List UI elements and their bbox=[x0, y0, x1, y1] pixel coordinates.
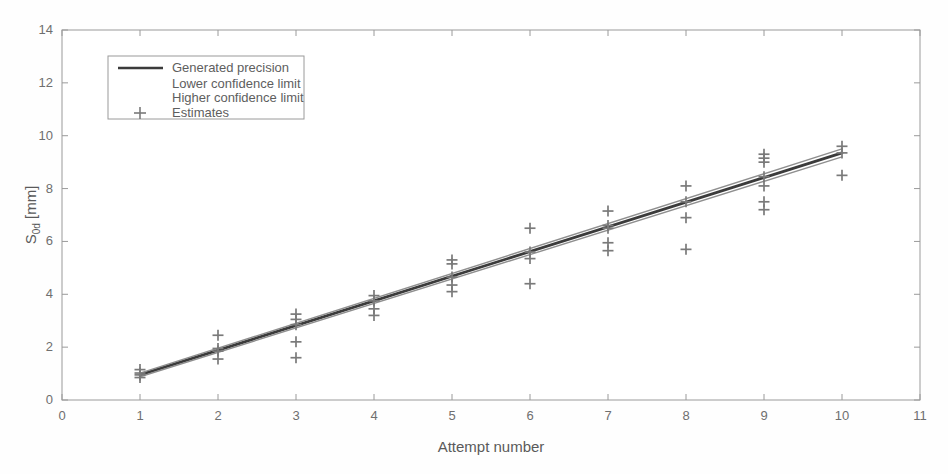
x-tick-label: 7 bbox=[604, 408, 611, 423]
x-tick-label: 1 bbox=[136, 408, 143, 423]
chart-legend: Generated precision Lower confidence lim… bbox=[108, 56, 304, 120]
x-tick-label: 0 bbox=[58, 408, 65, 423]
legend-label-0: Generated precision bbox=[172, 60, 289, 75]
y-axis-title-unitval: [mm] bbox=[22, 186, 39, 219]
y-tick-label: 4 bbox=[46, 286, 53, 301]
scatter-chart: 01234567891011 02468101214 Generated pre… bbox=[0, 0, 948, 474]
x-tick-label: 9 bbox=[760, 408, 767, 423]
y-tick-label: 14 bbox=[39, 22, 53, 37]
y-tick-label: 6 bbox=[46, 233, 53, 248]
y-tick-label: 2 bbox=[46, 339, 53, 354]
legend-label-1: Lower confidence limit bbox=[172, 76, 301, 91]
x-tick-label: 3 bbox=[292, 408, 299, 423]
y-axis-title-sub: 0d bbox=[31, 223, 42, 234]
legend-label-3: Estimates bbox=[172, 105, 230, 120]
y-tick-label: 0 bbox=[46, 392, 53, 407]
y-axis-title-main: S bbox=[22, 234, 39, 244]
x-tick-label: 11 bbox=[913, 408, 927, 423]
x-tick-label: 10 bbox=[835, 408, 849, 423]
figure-container: 01234567891011 02468101214 Generated pre… bbox=[0, 0, 948, 474]
x-tick-label: 8 bbox=[682, 408, 689, 423]
y-tick-label: 10 bbox=[39, 128, 53, 143]
legend-label-2: Higher confidence limit bbox=[172, 90, 304, 105]
y-tick-label: 12 bbox=[39, 75, 53, 90]
x-axis-title: Attempt number bbox=[438, 438, 545, 455]
y-tick-label: 8 bbox=[46, 181, 53, 196]
x-tick-label: 5 bbox=[448, 408, 455, 423]
y-axis-title: S0d [mm] bbox=[22, 186, 42, 245]
x-tick-label: 6 bbox=[526, 408, 533, 423]
x-tick-label: 2 bbox=[214, 408, 221, 423]
svg-text:S0d [mm]: S0d [mm] bbox=[22, 186, 42, 245]
x-tick-label: 4 bbox=[370, 408, 377, 423]
